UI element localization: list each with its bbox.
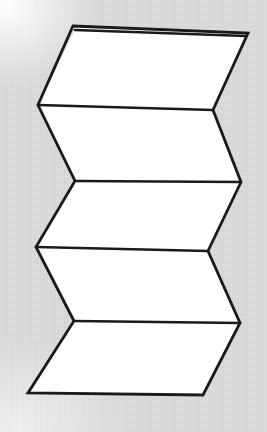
figure-canvas xyxy=(0,0,267,432)
panel-4 xyxy=(36,247,240,323)
fold-line-2 xyxy=(75,181,241,182)
panel-3 xyxy=(36,181,241,251)
zigzag-figure xyxy=(0,0,267,432)
panel-1 xyxy=(38,30,246,110)
